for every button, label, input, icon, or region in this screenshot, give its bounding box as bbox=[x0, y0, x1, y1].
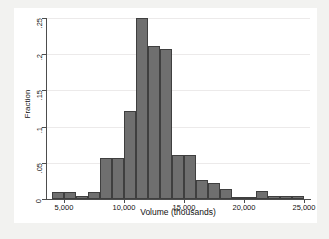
histogram-bar bbox=[256, 191, 268, 199]
y-axis-line bbox=[46, 18, 47, 200]
histogram-bar bbox=[220, 189, 232, 199]
y-tick-label-text: .15 bbox=[35, 90, 43, 100]
gridline bbox=[46, 18, 310, 19]
x-axis-title: Volume (thousands) bbox=[46, 208, 310, 217]
y-tick-label-text: .1 bbox=[35, 127, 43, 133]
x-axis-line bbox=[46, 199, 311, 200]
plot-panel: Fraction 0.05.1.15.2.25 5,00010,00015,00… bbox=[14, 8, 317, 223]
y-axis-title: Fraction bbox=[22, 8, 34, 199]
y-tick-label-text: .05 bbox=[35, 163, 43, 173]
histogram-bar bbox=[184, 155, 196, 199]
histogram-bar bbox=[172, 155, 184, 199]
gridline bbox=[46, 90, 310, 91]
y-tick-label-text: .25 bbox=[35, 18, 43, 28]
histogram-bar bbox=[196, 180, 208, 199]
plot-area: 0.05.1.15.2.25 5,00010,00015,00020,00025… bbox=[46, 18, 310, 199]
gridline bbox=[46, 54, 310, 55]
histogram-bar bbox=[100, 158, 112, 199]
histogram-bar bbox=[88, 192, 100, 199]
histogram-bar bbox=[160, 49, 172, 199]
histogram-bar bbox=[136, 18, 148, 199]
histogram-figure: Fraction 0.05.1.15.2.25 5,00010,00015,00… bbox=[0, 0, 329, 239]
y-tick-label-text: 0 bbox=[35, 199, 43, 203]
y-tick-label-text: .2 bbox=[35, 54, 43, 60]
histogram-bar bbox=[208, 183, 220, 199]
y-axis-title-text: Fraction bbox=[24, 89, 32, 118]
histogram-bar bbox=[148, 46, 160, 199]
histogram-bar bbox=[124, 111, 136, 199]
gridline bbox=[46, 127, 310, 128]
histogram-bar bbox=[112, 158, 124, 199]
